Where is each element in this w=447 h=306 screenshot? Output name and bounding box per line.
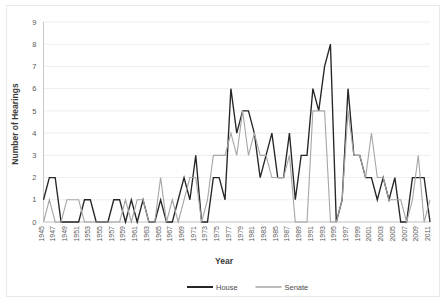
x-tick-label: 1995	[330, 226, 337, 242]
x-tick-label: 1981	[248, 226, 255, 242]
y-tick-label: 8	[32, 40, 36, 49]
x-tick-label: 1947	[49, 226, 56, 242]
x-tick-label: 2003	[377, 226, 384, 242]
y-tick-label: 2	[32, 173, 36, 182]
x-tick-label: 1989	[295, 226, 302, 242]
x-axis-tick-labels: 1945194719491951195319551957195919611963…	[38, 226, 432, 242]
series-line-senate	[44, 111, 431, 222]
x-tick-label: 1975	[213, 226, 220, 242]
x-tick-label: 1951	[73, 226, 80, 242]
x-tick-label: 1965	[155, 226, 162, 242]
x-tick-label: 2001	[365, 226, 372, 242]
y-axis-tick-labels: 0123456789	[32, 18, 36, 227]
y-tick-label: 6	[32, 84, 36, 93]
x-tick-label: 2011	[424, 226, 431, 241]
y-tick-label: 3	[32, 151, 36, 160]
axis-lines-group	[44, 22, 431, 222]
x-tick-label: 1977	[225, 226, 232, 242]
y-tick-label: 4	[32, 129, 36, 138]
x-tick-label: 1991	[307, 226, 314, 242]
y-axis-title: Number of Hearings	[10, 83, 20, 165]
line-chart: 0123456789 19451947194919511953195519571…	[0, 0, 447, 306]
x-tick-label: 1969	[178, 226, 185, 242]
x-tick-label: 1987	[283, 226, 290, 242]
x-tick-label: 1957	[108, 226, 115, 242]
y-tick-label: 0	[32, 218, 36, 227]
x-tick-label: 1985	[272, 226, 279, 242]
x-tick-label: 1997	[342, 226, 349, 242]
x-tick-label: 1945	[38, 226, 45, 242]
x-tick-label: 1999	[354, 226, 361, 242]
gridlines-group	[44, 22, 431, 222]
legend-label-house: House	[216, 283, 238, 292]
chart-legend: HouseSenate	[187, 283, 308, 292]
x-tick-label: 1971	[190, 226, 197, 242]
x-tick-label: 1993	[319, 226, 326, 242]
x-tick-label: 1955	[96, 226, 103, 242]
y-tick-label: 7	[32, 62, 36, 71]
x-tick-label: 1961	[131, 226, 138, 242]
x-tick-label: 2005	[389, 226, 396, 242]
x-tick-label: 1953	[84, 226, 91, 242]
legend-label-senate: Senate	[285, 283, 309, 292]
x-tick-label: 1963	[143, 226, 150, 242]
x-tick-label: 2007	[401, 226, 408, 242]
x-tick-label: 1973	[201, 226, 208, 242]
x-tick-label: 2009	[412, 226, 419, 242]
chart-figure: 0123456789 19451947194919511953195519571…	[0, 0, 447, 306]
y-tick-label: 9	[32, 18, 36, 27]
y-tick-label: 1	[32, 195, 36, 204]
x-tick-label: 1979	[237, 226, 244, 242]
x-tick-label: 1949	[61, 226, 68, 242]
y-tick-label: 5	[32, 107, 36, 116]
x-tick-label: 1983	[260, 226, 267, 242]
x-tick-label: 1967	[166, 226, 173, 242]
x-axis-title: Year	[215, 256, 234, 266]
x-tick-label: 1959	[119, 226, 126, 242]
